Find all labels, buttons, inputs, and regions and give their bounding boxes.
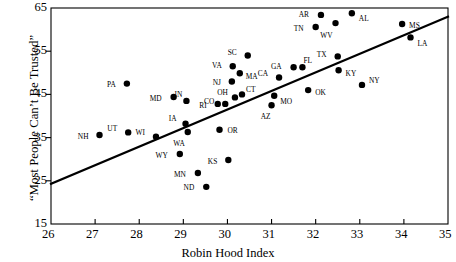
point-label-pa: PA (107, 80, 116, 89)
point-label-wy: WY (155, 151, 168, 160)
data-point-pa (124, 80, 130, 86)
data-point-fl (299, 64, 305, 70)
point-label-ar: AR (299, 10, 309, 19)
point-label-tx: TX (317, 50, 328, 59)
point-label-sc: SC (228, 48, 237, 57)
data-point-ky (335, 67, 341, 73)
plot-canvas: NHUTPAWIMDWYIAINWAMNNDRIORCOKSNJVAOHMACT… (0, 0, 456, 262)
point-label-wv: WV (320, 31, 333, 40)
point-label-ut: UT (107, 124, 117, 133)
point-label-co: CO (204, 97, 215, 106)
x-tick-label-29: 29 (174, 228, 187, 241)
x-tick-label-33: 33 (351, 228, 364, 241)
data-point-al (349, 10, 355, 16)
data-point-ok (305, 87, 311, 93)
point-label-ks: KS (208, 157, 217, 166)
point-label-ma: MA (246, 72, 259, 81)
regression-line (51, 17, 448, 184)
data-point-oh (232, 94, 238, 100)
point-label-nd: ND (184, 183, 195, 192)
y-axis-label: “Most People Can’t Be Trusted” (27, 18, 42, 218)
data-points: NHUTPAWIMDWYIAINWAMNNDRIORCOKSNJVAOHMACT… (78, 10, 428, 193)
point-label-va: VA (212, 61, 222, 70)
point-label-ia: IA (169, 114, 177, 123)
point-label-nj: NJ (213, 78, 221, 87)
data-point-wv (332, 20, 338, 26)
point-label-in: IN (175, 90, 183, 99)
point-label-ok: OK (315, 88, 326, 97)
data-point-mn (195, 170, 201, 176)
data-point-ut (125, 129, 131, 135)
data-point-ma (237, 70, 243, 76)
data-point-ia (182, 121, 188, 127)
point-label-nh: NH (78, 132, 89, 141)
data-point-ny (359, 82, 365, 88)
data-point-tx (335, 53, 341, 59)
scatter-plot-figure: NHUTPAWIMDWYIAINWAMNNDRIORCOKSNJVAOHMACT… (0, 0, 456, 262)
data-point-nh (96, 132, 102, 138)
point-label-ky: KY (346, 69, 357, 78)
x-tick-label-30: 30 (218, 228, 231, 241)
data-point-nd (203, 184, 209, 190)
data-point-az (268, 102, 274, 108)
x-tick-label-32: 32 (307, 228, 320, 241)
y-tick-label-15: 15 (27, 217, 47, 230)
point-label-ny: NY (369, 76, 380, 85)
point-label-ms: MS (409, 21, 420, 30)
data-point-or (216, 127, 222, 133)
point-label-ct: CT (246, 85, 256, 94)
x-axis-label: Robin Hood Index (0, 246, 456, 261)
y-tick-label-65: 65 (27, 1, 47, 14)
point-label-or: OR (228, 126, 238, 135)
point-label-ga: GA (271, 62, 282, 71)
point-label-oh: OH (217, 88, 228, 97)
data-point-ga (290, 64, 296, 70)
x-tick-label-31: 31 (263, 228, 276, 241)
data-point-ms (399, 21, 405, 27)
y-axis-label-wrapper: “Most People Can’t Be Trusted” (2, 0, 22, 235)
data-point-wi (153, 134, 159, 140)
x-tick-label-28: 28 (130, 228, 143, 241)
point-label-tn: TN (294, 24, 305, 33)
point-label-az: AZ (261, 112, 271, 121)
data-point-ri (215, 101, 221, 107)
data-point-va (230, 63, 236, 69)
data-point-ks (225, 157, 231, 163)
axes (46, 8, 448, 224)
data-point-ar (318, 12, 324, 18)
data-point-ca (276, 74, 282, 80)
point-label-fl: FL (303, 56, 312, 65)
point-label-ca: CA (258, 69, 269, 78)
data-point-in (183, 98, 189, 104)
data-point-mo (271, 92, 277, 98)
data-point-wy (177, 151, 183, 157)
data-point-co (222, 101, 228, 107)
data-point-sc (245, 52, 251, 58)
data-point-la (407, 34, 413, 40)
data-point-wa (185, 129, 191, 135)
data-point-tn (312, 24, 318, 30)
data-point-nj (229, 78, 235, 84)
point-label-wa: WA (173, 139, 185, 148)
x-tick-label-27: 27 (86, 228, 99, 241)
point-label-wi: WI (136, 128, 146, 137)
point-label-la: LA (418, 39, 429, 48)
data-point-ct (239, 91, 245, 97)
point-label-md: MD (150, 94, 163, 103)
point-label-al: AL (359, 14, 369, 23)
point-label-mn: MN (174, 170, 187, 179)
point-label-mo: MO (280, 97, 293, 106)
x-tick-label-34: 34 (395, 228, 408, 241)
x-tick-label-35: 35 (439, 228, 452, 241)
